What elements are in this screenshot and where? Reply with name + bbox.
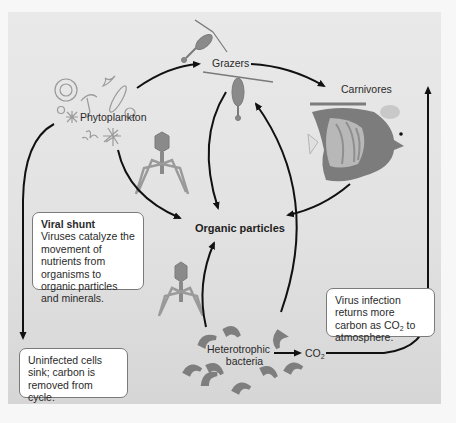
label-carnivores: Carnivores [341,83,392,95]
callout-uninfected-cells: Uninfected cells sink; carbon is removed… [19,348,128,398]
arrow-bacteria-to-organic [202,243,214,327]
arrow-grazers-to-organic [209,92,226,208]
arrow-grazers-to-carnivores [251,64,324,86]
arrow-carnivores-to-organic [288,184,350,215]
label-grazers: Grazers [212,57,249,69]
callout-virus-infection-pre: Virus infection returns more carbon as C… [335,294,401,331]
co2-base: CO [305,347,321,359]
callout-viral-shunt: Viral shunt Viruses catalyze the movemen… [32,212,144,290]
arrow-bacteria-to-grazers [256,104,297,312]
callout-uninfected-body: Uninfected cells sink; carbon is removed… [28,354,102,403]
callout-virus-infection: Virus infection returns more carbon as C… [326,288,435,337]
label-heterotrophic-bacteria: Heterotrophic bacteria [207,343,270,367]
label-bacteria-line2: bacteria [214,355,263,367]
label-co2: CO2 [305,347,325,359]
callout-viral-shunt-title: Viral shunt [41,218,135,230]
bacteriophage-icon [159,262,203,316]
label-heterotrophic-line1: Heterotrophic [207,343,270,355]
label-organic-particles: Organic particles [195,222,285,234]
label-phytoplankton: Phytoplankton [80,111,147,123]
co2-subscript: 2 [321,353,325,360]
fish-icon [308,104,404,181]
bacteriophage-icon [136,132,188,194]
arrow-phyto-to-grazers [137,64,199,88]
callout-viral-shunt-body: Viruses catalyze the movement of nutrien… [41,230,135,304]
